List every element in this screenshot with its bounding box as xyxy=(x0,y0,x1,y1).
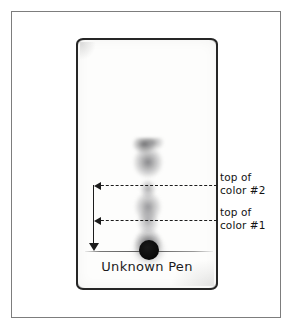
label-top-of-color1: top ofcolor #1 xyxy=(220,206,265,231)
ink-band-neck xyxy=(128,180,168,198)
arrowhead-down-icon xyxy=(89,243,99,251)
label-color2-line1: top of xyxy=(220,171,251,183)
label-color2-line2: color #2 xyxy=(220,184,265,196)
arrowhead-left-color2-icon xyxy=(94,182,101,190)
chromatography-figure: Unknown Pen top ofcolor #2 top ofcolor #… xyxy=(0,0,295,330)
arrowhead-left-color1-icon xyxy=(94,217,101,225)
ink-band-color2-upper xyxy=(128,138,168,182)
ink-band-middle xyxy=(128,194,168,232)
chromatography-paper-strip: Unknown Pen xyxy=(76,38,218,290)
strip-caption: Unknown Pen xyxy=(78,259,216,274)
dashed-line-color2 xyxy=(96,185,217,186)
label-top-of-color2: top ofcolor #2 xyxy=(220,171,265,196)
distance-measure-bar xyxy=(93,185,94,245)
label-color1-line2: color #1 xyxy=(220,219,265,231)
label-color1-line1: top of xyxy=(220,206,251,218)
dashed-line-color1 xyxy=(96,220,217,221)
ink-origin-spot xyxy=(139,240,159,260)
paper-shadow-top-left xyxy=(80,42,96,60)
